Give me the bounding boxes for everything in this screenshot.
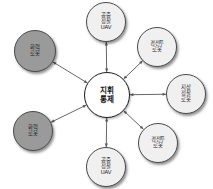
edge-hub-firepower-robot-upper-left-line — [53, 62, 87, 83]
node-ground-recon-robot-right[interactable]: 지상정찰로봇 — [166, 74, 206, 114]
node-label-line: 통제 — [100, 95, 114, 104]
edge-hub-light-combat-robot-upper-right — [124, 61, 143, 79]
node-label-line: UAV — [101, 25, 112, 31]
node-label-line: 로봇 — [181, 97, 191, 103]
edge-hub-firepower-robot-lower-left — [51, 105, 86, 122]
edge-hub-aerial-recon-uav-top — [105, 42, 108, 72]
edge-hub-light-combat-robot-lower-right-line — [124, 111, 144, 130]
node-aerial-recon-uav-bottom[interactable]: 공중정찰UAV — [86, 147, 126, 187]
node-label-line: 로봇 — [153, 143, 163, 149]
edge-hub-light-combat-robot-lower-right — [124, 111, 144, 130]
node-light-combat-robot-upper-right[interactable]: 경전투로봇 — [137, 27, 177, 67]
edge-hub-firepower-robot-upper-left — [53, 62, 87, 83]
edge-hub-light-combat-robot-upper-right-line — [124, 61, 143, 79]
edge-hub-aerial-recon-uav-top-arrow-to — [105, 42, 108, 45]
node-label-line: 지휘 — [100, 86, 114, 95]
node-label-line: 로봇 — [152, 47, 162, 53]
node-label-line: 로봇 — [28, 131, 38, 137]
edge-hub-aerial-recon-uav-bottom-arrow-from — [105, 118, 108, 121]
node-aerial-recon-uav-top[interactable]: 공중정찰UAV — [86, 2, 126, 42]
node-label-line: UAV — [101, 170, 112, 176]
network-diagram: 공중정찰UAV경전투로봇지상정찰로봇경전투로봇공중정찰UAV화력로봇화력로봇지휘… — [0, 0, 213, 189]
edge-hub-firepower-robot-lower-left-line — [51, 105, 86, 122]
node-label-line: 로봇 — [30, 51, 40, 57]
node-light-combat-robot-lower-right[interactable]: 경전투로봇 — [138, 123, 178, 163]
node-firepower-robot-upper-left[interactable]: 화력로봇 — [14, 30, 56, 72]
edge-hub-aerial-recon-uav-bottom — [105, 118, 108, 147]
edge-hub-ground-recon-robot-right-arrow-from — [130, 93, 133, 96]
edge-hub-ground-recon-robot-right — [130, 93, 166, 96]
node-command-control[interactable]: 지휘통제 — [84, 72, 130, 118]
node-firepower-robot-lower-left[interactable]: 화력로봇 — [13, 111, 53, 151]
